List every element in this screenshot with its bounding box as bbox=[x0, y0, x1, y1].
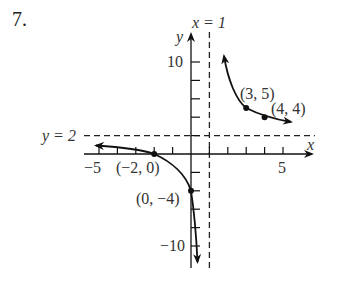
vertical-asymptote-label: x = 1 bbox=[191, 14, 226, 31]
rational-function-graph: x = 1 y x y = 2 10 −10 −5 5 (3, 5) (4, 4… bbox=[0, 0, 338, 281]
x-axis-label: x bbox=[306, 136, 314, 153]
tick-label-x-5: 5 bbox=[278, 159, 286, 176]
tick-label-y-10: 10 bbox=[167, 53, 183, 70]
point-label-3-5: (3, 5) bbox=[240, 85, 275, 103]
tick-label-y-neg10: −10 bbox=[160, 237, 185, 254]
horizontal-asymptote-label: y = 2 bbox=[40, 127, 76, 145]
y-axis-label: y bbox=[174, 28, 184, 46]
point-3-5 bbox=[243, 105, 249, 111]
point-neg2-0 bbox=[151, 151, 157, 157]
point-label-0-neg4: (0, −4) bbox=[136, 190, 180, 208]
point-label-neg2-0: (−2, 0) bbox=[116, 159, 160, 177]
point-4-4 bbox=[262, 114, 268, 120]
tick-label-x-neg5: −5 bbox=[84, 159, 101, 176]
point-0-neg4 bbox=[188, 188, 194, 194]
point-label-4-4: (4, 4) bbox=[271, 100, 306, 118]
